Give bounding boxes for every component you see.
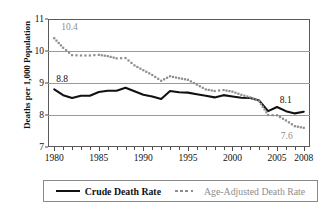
x-tick-mark-minor	[259, 147, 260, 150]
x-tick-mark-major	[54, 147, 55, 151]
death-rate-line-chart: Deaths per 1,000 Population 7891011 1980…	[0, 0, 329, 214]
x-tick-mark-minor	[224, 147, 225, 150]
legend-item-crude-death-rate: Crude Death Rate	[56, 186, 161, 197]
x-tick-mark-minor	[206, 147, 207, 150]
x-tick-label: 1995	[178, 153, 197, 163]
x-tick-label: 1985	[89, 153, 108, 163]
x-tick-label: 2008	[294, 153, 313, 163]
x-tick-label: 2000	[223, 153, 242, 163]
value-annotation-7-6: 7.6	[281, 131, 293, 141]
x-tick-mark-minor	[126, 147, 127, 150]
legend-item-age-adjusted-death-rate: Age-Adjusted Death Rate	[175, 186, 305, 197]
y-tick-label: 10	[35, 46, 45, 56]
value-annotation-8-8: 8.8	[56, 74, 68, 84]
x-tick-mark-minor	[215, 147, 216, 150]
x-tick-mark-minor	[286, 147, 287, 150]
x-tick-mark-minor	[179, 147, 180, 150]
x-tick-mark-minor	[197, 147, 198, 150]
series-crude-death-rate	[54, 88, 304, 114]
x-tick-mark-major	[99, 147, 100, 151]
y-axis-title: Deaths per 1,000 Population	[22, 0, 32, 150]
chart-legend: Crude Death Rate Age-Adjusted Death Rate	[43, 180, 318, 202]
x-tick-mark-minor	[81, 147, 82, 150]
dotted-line-swatch-icon	[175, 190, 199, 193]
value-annotation-10-4: 10.4	[61, 22, 78, 32]
x-tick-mark-major	[232, 147, 233, 151]
x-tick-mark-minor	[108, 147, 109, 150]
series-age-adjusted-death-rate	[53, 37, 305, 129]
x-tick-mark-minor	[241, 147, 242, 150]
y-tick-label: 8	[39, 110, 44, 120]
x-tick-mark-major	[143, 147, 144, 151]
x-tick-mark-minor	[161, 147, 162, 150]
x-tick-mark-minor	[117, 147, 118, 150]
x-tick-label: 2005	[268, 153, 287, 163]
y-tick-label: 7	[39, 142, 44, 152]
legend-label-crude-death-rate: Crude Death Rate	[85, 186, 161, 197]
y-tick-label: 11	[35, 14, 44, 24]
plot-area: 7891011 1980198519901995200020052008 10.…	[48, 19, 310, 147]
x-tick-mark-major	[277, 147, 278, 151]
x-tick-mark-minor	[90, 147, 91, 150]
x-tick-label: 1980	[45, 153, 64, 163]
x-tick-mark-minor	[170, 147, 171, 150]
x-tick-mark-minor	[152, 147, 153, 150]
value-annotation-8-1: 8.1	[280, 95, 292, 105]
x-tick-mark-major	[188, 147, 189, 151]
x-tick-mark-major	[304, 147, 305, 151]
x-tick-mark-minor	[268, 147, 269, 150]
x-tick-mark-minor	[295, 147, 296, 150]
series-layer	[48, 19, 310, 147]
x-tick-mark-minor	[250, 147, 251, 150]
y-tick-label: 9	[39, 78, 44, 88]
legend-label-age-adjusted-death-rate: Age-Adjusted Death Rate	[204, 186, 305, 197]
x-tick-mark-minor	[134, 147, 135, 150]
x-tick-mark-minor	[63, 147, 64, 150]
x-tick-mark-minor	[72, 147, 73, 150]
x-tick-label: 1990	[134, 153, 153, 163]
solid-line-swatch-icon	[56, 190, 80, 193]
